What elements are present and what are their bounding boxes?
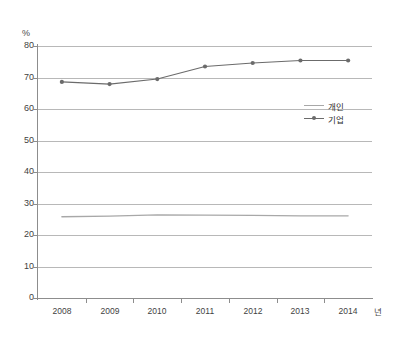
data-point-기업-2010 — [155, 77, 159, 81]
y-tick-40: 40 — [4, 172, 34, 173]
x-tick-mark-4 — [229, 298, 230, 303]
data-point-기업-2014 — [346, 58, 350, 62]
legend-item-individual[interactable]: 개인 — [304, 99, 366, 112]
y-tick-mark-80 — [33, 46, 37, 47]
y-tick-80: 80 — [4, 46, 34, 47]
line-chart: % 01020304050607080 20082009201020112012… — [0, 0, 396, 340]
y-tick-label-60: 60 — [8, 104, 34, 113]
x-axis-unit-label: 년 — [374, 305, 382, 317]
x-tick-label-2014: 2014 — [325, 306, 371, 316]
y-tick-60: 60 — [4, 109, 34, 110]
data-point-기업-2013 — [298, 58, 302, 62]
x-tick-label-2011: 2011 — [182, 306, 228, 316]
y-tick-mark-50 — [33, 141, 37, 142]
x-tick-mark-1 — [86, 298, 87, 303]
legend-line-icon-individual — [304, 100, 324, 111]
series-line-기업 — [62, 60, 348, 84]
data-point-기업-2008 — [60, 80, 64, 84]
y-tick-label-10: 10 — [8, 262, 34, 271]
legend-item-enterprise[interactable]: 기업 — [304, 112, 366, 125]
series-plot-area — [38, 46, 372, 298]
series-line-개인 — [62, 215, 348, 217]
y-tick-mark-30 — [33, 204, 37, 205]
y-tick-70: 70 — [4, 78, 34, 79]
y-tick-mark-20 — [33, 235, 37, 236]
y-tick-mark-70 — [33, 78, 37, 79]
y-tick-label-30: 30 — [8, 199, 34, 208]
x-tick-mark-3 — [181, 298, 182, 303]
y-tick-10: 10 — [4, 267, 34, 268]
y-tick-0: 0 — [4, 298, 34, 299]
y-tick-30: 30 — [4, 204, 34, 205]
x-tick-label-2008: 2008 — [39, 306, 85, 316]
x-tick-label-2012: 2012 — [230, 306, 276, 316]
chart-legend: 개인 기업 — [304, 99, 366, 125]
x-tick-mark-2 — [133, 298, 134, 303]
y-tick-50: 50 — [4, 141, 34, 142]
x-tick-mark-6 — [324, 298, 325, 303]
y-tick-label-70: 70 — [8, 73, 34, 82]
legend-line-dot-icon-enterprise — [304, 113, 324, 124]
y-tick-label-20: 20 — [8, 230, 34, 239]
y-tick-mark-10 — [33, 267, 37, 268]
y-tick-20: 20 — [4, 235, 34, 236]
data-point-기업-2011 — [203, 64, 207, 68]
y-tick-mark-40 — [33, 172, 37, 173]
x-tick-mark-5 — [277, 298, 278, 303]
y-tick-label-50: 50 — [8, 136, 34, 145]
x-tick-label-2009: 2009 — [87, 306, 133, 316]
y-tick-mark-0 — [33, 298, 37, 299]
y-tick-mark-60 — [33, 109, 37, 110]
y-tick-label-40: 40 — [8, 167, 34, 176]
y-tick-label-0: 0 — [8, 293, 34, 302]
data-point-기업-2012 — [251, 61, 255, 65]
x-tick-label-2013: 2013 — [277, 306, 323, 316]
data-point-기업-2009 — [107, 82, 111, 86]
x-tick-label-2010: 2010 — [134, 306, 180, 316]
x-axis-line — [37, 298, 373, 299]
y-tick-label-80: 80 — [8, 41, 34, 50]
y-axis-unit-label: % — [22, 28, 30, 38]
legend-label-individual: 개인 — [324, 100, 344, 112]
legend-label-enterprise: 기업 — [324, 113, 344, 125]
